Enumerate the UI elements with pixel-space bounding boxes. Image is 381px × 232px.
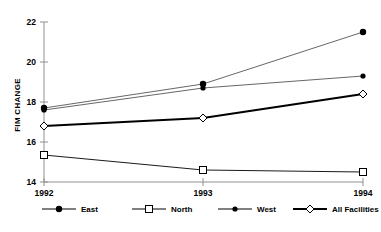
y-tick-label: 22 bbox=[27, 17, 37, 27]
data-point-north-1994 bbox=[360, 169, 367, 176]
x-tick-label: 1994 bbox=[354, 188, 373, 198]
data-point-east-1992 bbox=[41, 105, 47, 111]
data-point-north-1992 bbox=[41, 152, 48, 159]
legend-label-east: East bbox=[81, 205, 98, 214]
open-square-icon bbox=[146, 206, 153, 213]
y-tick-label: 14 bbox=[27, 177, 37, 187]
legend-label-north: North bbox=[171, 205, 192, 214]
y-tick-label: 16 bbox=[27, 137, 37, 147]
legend-label-west: West bbox=[257, 205, 276, 214]
data-point-east-1993 bbox=[200, 81, 206, 87]
data-point-east-1994 bbox=[360, 29, 366, 35]
small-filled-circle-icon bbox=[232, 206, 237, 211]
line-chart-canvas: 22 20 18 16 14 1992 1993 1994 FIM CHANGE bbox=[0, 0, 381, 232]
data-point-north-1993 bbox=[200, 167, 207, 174]
chart-background bbox=[0, 0, 381, 232]
y-tick-label: 20 bbox=[27, 57, 37, 67]
legend-label-all-facilities: All Facilities bbox=[332, 205, 379, 214]
x-tick-label: 1992 bbox=[35, 188, 54, 198]
x-tick-label: 1993 bbox=[194, 188, 213, 198]
data-point-west-1994 bbox=[360, 73, 365, 78]
y-axis-title: FIM CHANGE bbox=[13, 78, 22, 132]
y-tick-label: 18 bbox=[27, 97, 37, 107]
filled-circle-icon bbox=[56, 206, 62, 212]
chart-figure: 22 20 18 16 14 1992 1993 1994 FIM CHANGE bbox=[0, 0, 381, 232]
